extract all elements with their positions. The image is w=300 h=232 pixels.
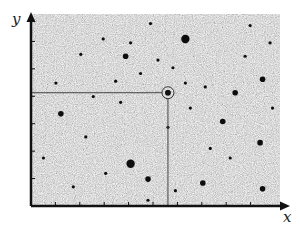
star [257, 140, 263, 146]
star [79, 53, 82, 56]
star [204, 85, 207, 88]
star [260, 76, 266, 82]
star [126, 160, 134, 168]
star [184, 82, 187, 85]
image-noise [31, 14, 280, 206]
star [42, 156, 45, 159]
star [232, 90, 238, 96]
star [54, 82, 57, 85]
star [119, 101, 122, 104]
star [146, 199, 149, 202]
star [171, 66, 174, 69]
star [244, 55, 247, 58]
star [156, 58, 159, 61]
star [92, 95, 95, 98]
star [58, 111, 64, 117]
target-star [165, 90, 170, 95]
star-field-diagram: x y [0, 0, 300, 232]
star [84, 135, 87, 138]
star [268, 41, 271, 44]
star [229, 156, 232, 159]
star [104, 172, 107, 175]
star [220, 119, 226, 125]
star [114, 80, 117, 83]
y-axis-label: y [11, 10, 21, 28]
star [189, 106, 192, 109]
star [271, 106, 274, 109]
star [102, 37, 105, 40]
star [249, 24, 252, 27]
star [260, 186, 266, 192]
star [209, 147, 212, 150]
star [129, 41, 132, 44]
star [72, 185, 75, 188]
star [200, 180, 206, 186]
star [174, 189, 177, 192]
star [181, 35, 189, 43]
star [123, 53, 129, 59]
star [139, 72, 142, 75]
star [149, 22, 152, 25]
star [145, 176, 151, 182]
x-axis-label: x [283, 208, 292, 226]
